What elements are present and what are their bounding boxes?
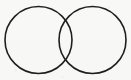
diagram-canvas [0,0,131,80]
venn-diagram-figure [0,0,131,80]
